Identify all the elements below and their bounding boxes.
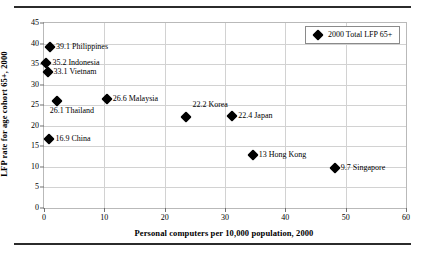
- y-tick-label: 40: [31, 40, 39, 48]
- y-tick-mark: [40, 125, 44, 126]
- y-tick-mark: [40, 166, 44, 167]
- y-tick-label: 5: [35, 183, 39, 191]
- x-tick-label: 40: [281, 214, 289, 222]
- x-tick-label: 50: [342, 214, 350, 222]
- data-point-label: 13 Hong Kong: [259, 151, 307, 159]
- y-gridline: [44, 126, 406, 127]
- y-tick-mark: [40, 105, 44, 106]
- y-tick-label: 15: [31, 142, 39, 150]
- diamond-marker-icon: [44, 133, 55, 144]
- y-tick-label: 20: [31, 122, 39, 130]
- x-tick-label: 10: [100, 214, 108, 222]
- x-tick-mark: [346, 208, 347, 212]
- bottom-divider-rule: [14, 243, 411, 245]
- legend-label: 2000 Total LFP 65+: [328, 31, 392, 39]
- x-gridline: [165, 23, 166, 208]
- data-point-label: 26.6 Malaysia: [113, 95, 158, 103]
- y-tick-label: 10: [31, 163, 39, 171]
- y-tick-label: 0: [35, 204, 39, 212]
- data-point-label: 39.1 Philippines: [56, 43, 108, 51]
- x-tick-label: 0: [42, 214, 46, 222]
- top-divider-rule: [14, 6, 411, 8]
- y-gridline: [44, 187, 406, 188]
- y-tick-mark: [40, 23, 44, 24]
- chart-legend: 2000 Total LFP 65+: [305, 26, 400, 44]
- diamond-marker-icon: [227, 110, 238, 121]
- y-tick-label: 30: [31, 81, 39, 89]
- diamond-marker-icon: [247, 149, 258, 160]
- y-tick-label: 25: [31, 101, 39, 109]
- data-point-label: 22.4 Japan: [238, 112, 272, 120]
- y-tick-label: 35: [31, 60, 39, 68]
- y-tick-mark: [40, 146, 44, 147]
- data-point-label: 22.2 Korea: [192, 101, 228, 109]
- y-axis-title: LFP rate for age cohort 65+, 2000: [0, 51, 9, 176]
- x-tick-mark: [225, 208, 226, 212]
- data-point-label: 33.1 Vietnam: [54, 68, 97, 76]
- y-tick-mark: [40, 187, 44, 188]
- y-gridline: [44, 85, 406, 86]
- y-tick-mark: [40, 84, 44, 85]
- y-tick-mark: [40, 208, 44, 209]
- x-tick-mark: [104, 208, 105, 212]
- x-tick-label: 20: [161, 214, 169, 222]
- x-tick-mark: [165, 208, 166, 212]
- y-tick-label: 45: [31, 19, 39, 27]
- legend-diamond-icon: [312, 29, 323, 40]
- plot-area: 010203040506005101520253035404539.1 Phil…: [43, 22, 407, 209]
- x-tick-mark: [406, 208, 407, 212]
- x-gridline: [285, 23, 286, 208]
- chart-figure: LFP rate for age cohort 65+, 2000 Person…: [0, 0, 425, 254]
- x-axis-title: Personal computers per 10,000 population…: [43, 228, 405, 238]
- diamond-marker-icon: [181, 111, 192, 122]
- x-tick-mark: [285, 208, 286, 212]
- x-tick-label: 30: [221, 214, 229, 222]
- data-point-label: 16.9 China: [55, 135, 90, 143]
- y-tick-mark: [40, 43, 44, 44]
- diamond-marker-icon: [329, 162, 340, 173]
- x-tick-label: 60: [402, 214, 410, 222]
- data-point-label: 26.1 Thailand: [50, 107, 94, 115]
- y-gridline: [44, 146, 406, 147]
- x-tick-mark: [44, 208, 45, 212]
- data-point-label: 9.7 Singapore: [341, 164, 385, 172]
- x-gridline: [346, 23, 347, 208]
- diamond-marker-icon: [42, 66, 53, 77]
- diamond-marker-icon: [101, 93, 112, 104]
